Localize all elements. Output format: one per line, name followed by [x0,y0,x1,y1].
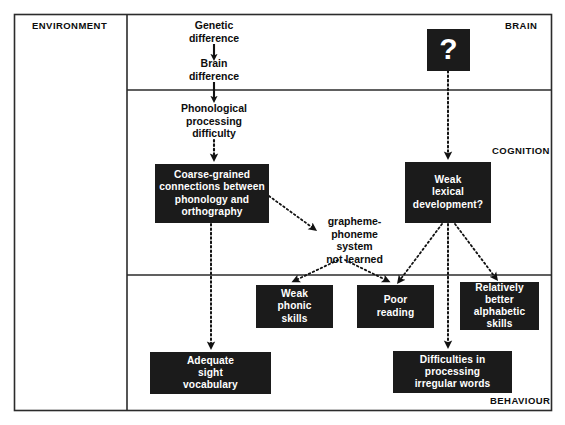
level-label-behaviour: BEHAVIOUR [490,396,550,406]
node-genetic-difference: Genetic difference [164,19,264,44]
node-brain-difference: Brain difference [164,57,264,82]
box-poor-reading[interactable]: Poor reading [357,285,434,328]
box-coarse-grained-connections[interactable]: Coarse-grained connections between phono… [155,164,269,223]
node-phonological-processing-difficulty: Phonological processing difficulty [158,102,270,140]
diagram-canvas: ENVIRONMENT BRAIN COGNITION BEHAVIOUR Ge… [0,0,565,425]
box-weak-lexical-development[interactable]: Weak lexical development? [405,162,491,223]
node-grapheme-phoneme-system-not-learned: grapheme- phoneme system not learned [312,215,397,265]
level-label-brain: BRAIN [505,21,537,31]
box-adequate-sight-vocabulary[interactable]: Adequate sight vocabulary [150,352,271,394]
box-relatively-better-alphabetic-skills[interactable]: Relatively better alphabetic skills [460,282,539,330]
connector-weak-lexical-to-poor-reading [400,224,442,280]
box-question-mark[interactable]: ? [427,29,470,71]
box-weak-phonic-skills[interactable]: Weak phonic skills [256,285,333,328]
box-difficulties-irregular-words[interactable]: Difficulties in processing irregular wor… [393,351,512,393]
level-label-cognition: COGNITION [492,146,550,156]
level-label-environment: ENVIRONMENT [32,21,107,31]
connector-coarse-grained-to-grapheme [269,196,313,228]
connector-weak-lexical-to-relatively-better [455,224,495,277]
